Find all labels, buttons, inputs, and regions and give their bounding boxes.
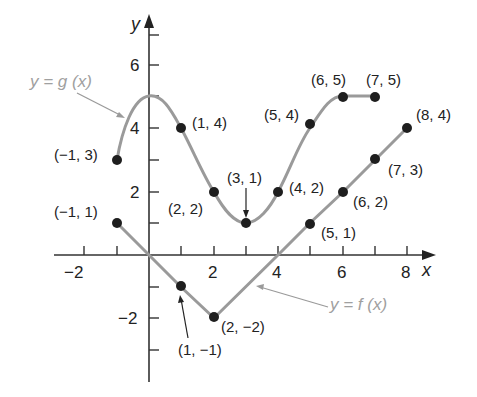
- label-f-7-3: (7, 3): [388, 161, 423, 178]
- label-f-6-2: (6, 2): [353, 193, 388, 210]
- y-tick-label-2: 2: [130, 183, 139, 202]
- y-axis-label: y: [129, 14, 141, 34]
- label-f-m1-1: (−1, 1): [54, 203, 98, 220]
- point-3-1-arrow-icon: [243, 210, 249, 218]
- y-axis-arrow-icon: [144, 14, 154, 28]
- label-g-1-4: (1, 4): [192, 114, 227, 131]
- y-tick-label-4: 4: [130, 119, 139, 138]
- label-g-6-5: (6, 5): [311, 71, 346, 88]
- y-tick-label-neg2: −2: [118, 309, 137, 328]
- label-f-1-m1: (1, −1): [178, 341, 222, 358]
- y-tick-label-6: 6: [130, 56, 139, 75]
- g-curve-label: y = g (x): [29, 72, 92, 91]
- x-tick-label-6: 6: [337, 263, 346, 282]
- x-axis-label: x: [421, 260, 432, 280]
- label-f-8-4: (8, 4): [416, 106, 451, 123]
- x-tick-label-8: 8: [401, 263, 410, 282]
- x-ticks: [84, 246, 407, 255]
- label-g-7-5: (7, 5): [366, 71, 401, 88]
- curve-f: [117, 128, 407, 318]
- point-1-m1-arrow-icon: [178, 295, 184, 303]
- label-g-5-4: (5, 4): [264, 106, 299, 123]
- label-f-2-m2: (2, −2): [221, 318, 265, 335]
- f-curve-label: y = f (x): [329, 295, 387, 314]
- label-g-4-2: (4, 2): [289, 179, 324, 196]
- x-axis-arrow-icon: [422, 250, 436, 260]
- label-g-2-2: (2, 2): [168, 200, 203, 217]
- x-tick-label-neg2: −2: [64, 263, 83, 282]
- x-tick-label-4: 4: [272, 263, 281, 282]
- label-g-3-1: (3, 1): [227, 169, 262, 186]
- label-f-5-1: (5, 1): [321, 224, 356, 241]
- y-ticks: [149, 35, 159, 350]
- f-label-arrow-icon: [256, 284, 264, 290]
- x-tick-label-2: 2: [208, 263, 217, 282]
- function-graph: −2 2 4 6 8 x 6 4 2 −2 y: [0, 0, 477, 397]
- label-g-m1-3: (−1, 3): [54, 146, 98, 163]
